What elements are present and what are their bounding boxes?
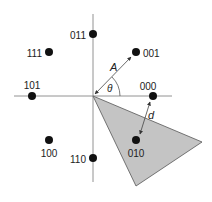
point-label-010: 010 (128, 148, 145, 159)
amplitude-label: A (109, 61, 117, 73)
point-label-000: 000 (140, 81, 157, 92)
point-label-111: 111 (27, 48, 43, 59)
distance-label: d (148, 109, 155, 121)
point-label-110: 110 (70, 154, 86, 165)
constellation-point-111 (45, 48, 53, 56)
point-label-100: 100 (41, 148, 58, 159)
point-label-011: 011 (70, 30, 86, 41)
constellation-point-110 (89, 154, 97, 162)
constellation-point-101 (28, 92, 36, 100)
angle-label: θ (107, 83, 113, 94)
psk-constellation-diagram: A θ d 000001011111101100110010 (0, 0, 212, 202)
constellation-point-011 (89, 30, 97, 38)
point-label-101: 101 (24, 80, 41, 91)
point-label-001: 001 (143, 48, 160, 59)
constellation-point-100 (45, 136, 53, 144)
constellation-point-001 (132, 48, 140, 56)
constellation-point-000 (149, 92, 157, 100)
constellation-point-010 (132, 136, 140, 144)
angle-arc (112, 77, 120, 96)
